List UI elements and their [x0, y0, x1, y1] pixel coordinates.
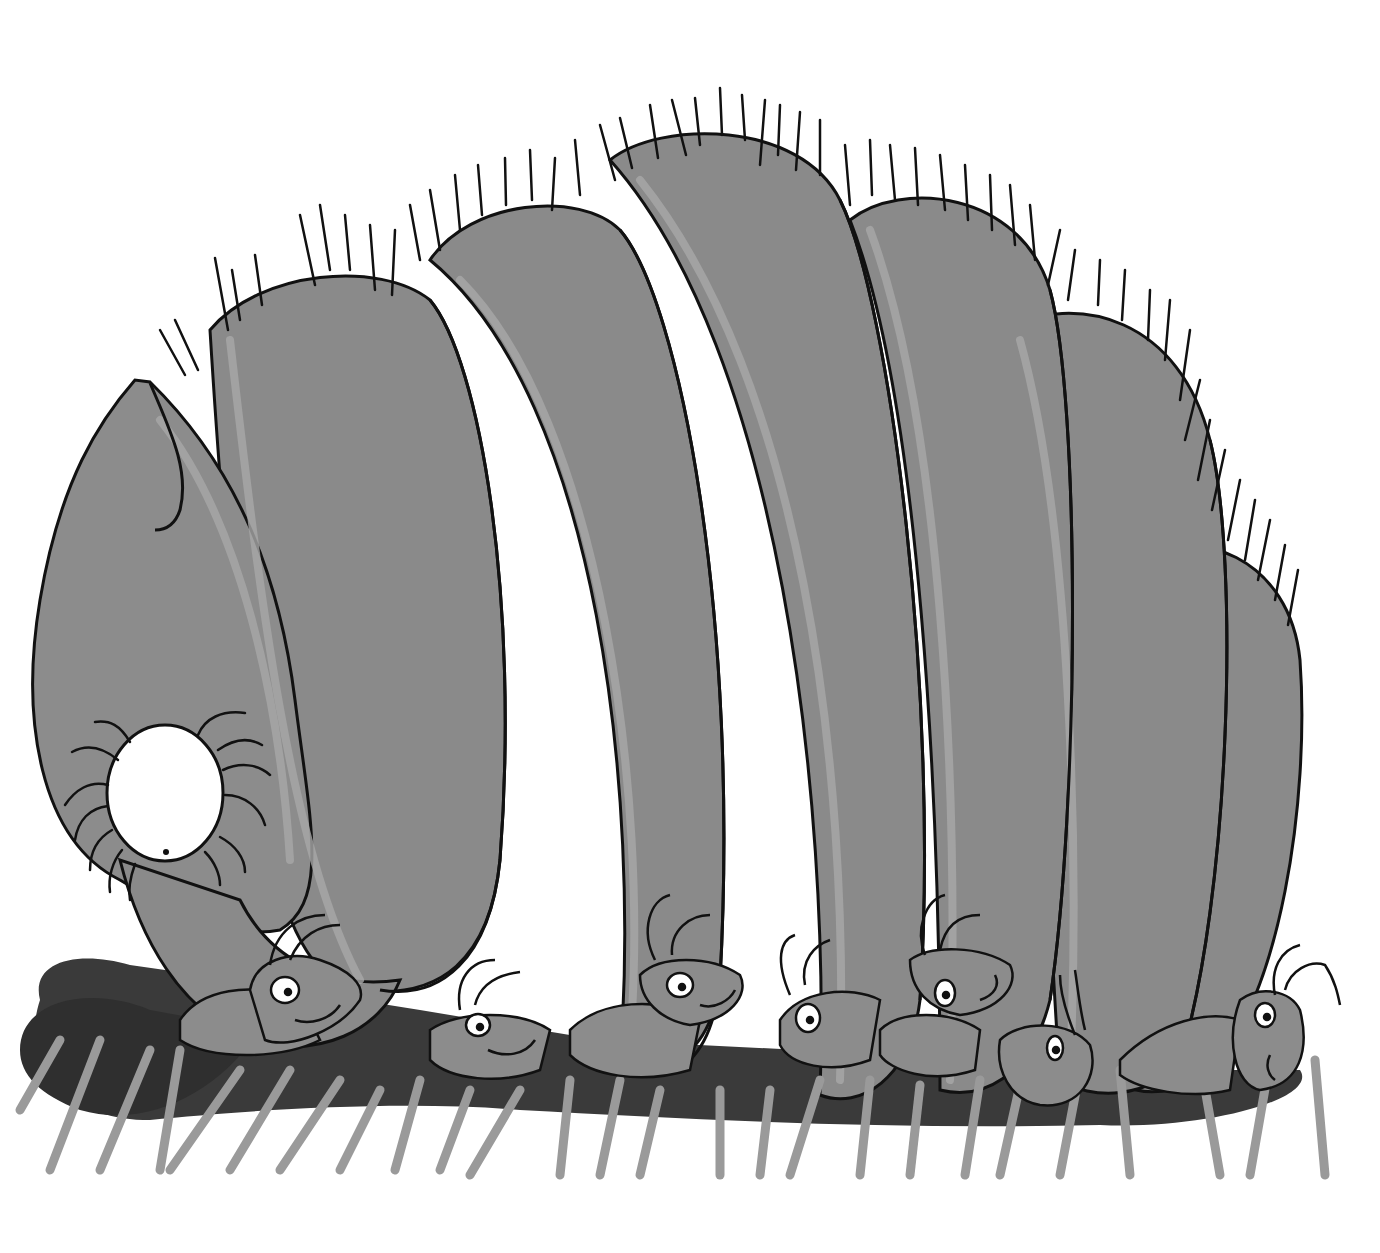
- larva: [33, 134, 1302, 1099]
- ants-carrying-larva-illustration: [0, 0, 1380, 1253]
